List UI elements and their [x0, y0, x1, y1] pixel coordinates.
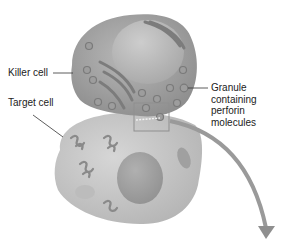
killer-nucleus — [112, 20, 184, 84]
label-target-cell: Target cell — [8, 97, 54, 109]
arrow-head-icon — [258, 226, 275, 239]
label-granule-line4: molecules — [211, 117, 257, 129]
label-killer-cell: Killer cell — [8, 67, 48, 79]
target-nucleus — [117, 152, 163, 204]
target-cell — [55, 112, 202, 224]
label-granule-line3: perforin — [211, 105, 257, 117]
label-granule-line2: containing — [211, 94, 257, 106]
label-granule: Granule containing perforin molecules — [211, 82, 257, 128]
target-cell-leader — [33, 115, 63, 137]
label-granule-line1: Granule — [211, 82, 257, 94]
granule-perforin — [180, 84, 188, 92]
